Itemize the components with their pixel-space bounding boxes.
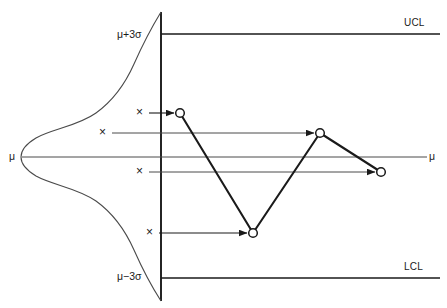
sample-point-1 [176, 109, 185, 118]
lower-sigma-label: μ−3σ [117, 271, 142, 282]
sample-mean-polyline [180, 113, 381, 233]
mean-label-right: μ [429, 151, 435, 162]
observation-mark-4: × [146, 226, 153, 238]
control-chart-diagram: × × × × μ+3σ μ−3σ μ μ UCL LCL [0, 0, 447, 308]
sample-point-2 [249, 229, 258, 238]
observation-mark-1: × [136, 106, 143, 118]
mean-label-left: μ [9, 151, 15, 162]
sample-point-3 [316, 129, 325, 138]
lcl-label: LCL [404, 262, 423, 272]
chart-canvas [0, 0, 447, 308]
sample-point-4 [377, 168, 386, 177]
ucl-label: UCL [404, 18, 425, 28]
observation-mark-2: × [99, 126, 106, 138]
observation-mark-3: × [136, 165, 143, 177]
upper-sigma-label: μ+3σ [117, 29, 142, 40]
